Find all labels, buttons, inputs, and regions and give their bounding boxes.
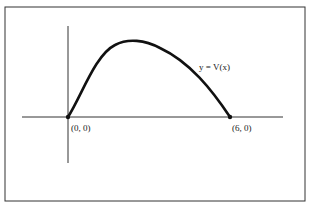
- curve-label: y = V(x): [199, 62, 230, 72]
- function-graph: y = V(x) (0, 0) (6, 0): [0, 0, 318, 213]
- frame-border: [5, 7, 305, 201]
- end-point: [228, 115, 232, 119]
- origin-point: [66, 115, 70, 119]
- end-label: (6, 0): [232, 123, 252, 133]
- curve-v-of-x: [68, 41, 230, 117]
- origin-label: (0, 0): [71, 123, 91, 133]
